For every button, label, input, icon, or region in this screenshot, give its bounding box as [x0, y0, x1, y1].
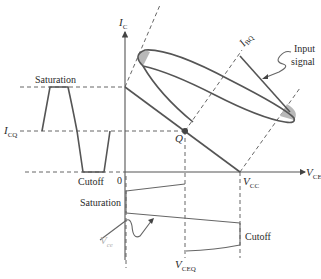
ic-output-waveform	[42, 87, 110, 172]
saturation-diagonal-dashed	[125, 5, 160, 87]
cutoff-bottom-label: Cutoff	[245, 231, 272, 242]
origin-label: 0	[117, 175, 122, 186]
vce-output-waveform	[126, 184, 240, 251]
load-line-diagram: IC VCE 0 Saturation ICQ Cutoff Q IBQ Inp…	[0, 0, 321, 279]
input-signal-waveform	[138, 50, 296, 123]
cutoff-left-label: Cutoff	[78, 176, 105, 187]
vcc-label: VCC	[243, 175, 259, 190]
input-signal-label-line2: signal	[291, 56, 315, 67]
ic-axis-label: IC	[118, 16, 128, 31]
icq-label: ICQ	[3, 124, 17, 139]
vceq-label: VCEQ	[175, 258, 196, 273]
vce-axis-label: VCE	[306, 166, 321, 181]
vce-signal-pointer	[100, 218, 154, 240]
ibq-label: IBQ	[236, 30, 256, 50]
input-signal-label-line1: Input	[294, 43, 315, 54]
input-signal-pointer	[262, 52, 291, 80]
vce-signal-label: Vce	[100, 234, 113, 249]
q-point-label: Q	[175, 132, 183, 144]
saturation-left-label: Saturation	[35, 74, 76, 85]
saturation-bottom-label: Saturation	[80, 197, 121, 208]
